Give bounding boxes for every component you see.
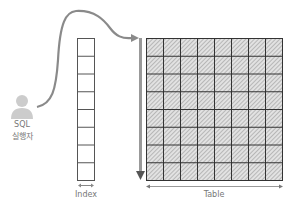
actor-label-sql: SQL: [2, 121, 42, 129]
diagram-canvas: [0, 0, 291, 209]
index-column: [78, 39, 95, 181]
index-label: Index: [66, 191, 106, 199]
scan-arrow-icon: [136, 38, 145, 180]
table-label: Table: [194, 191, 234, 199]
person-icon: [11, 95, 33, 119]
table-grid: [147, 39, 283, 181]
actor-label-executor: 실행자: [0, 133, 44, 141]
index-width-arrow-icon: [78, 184, 94, 188]
table-width-arrow-icon: [146, 185, 283, 189]
